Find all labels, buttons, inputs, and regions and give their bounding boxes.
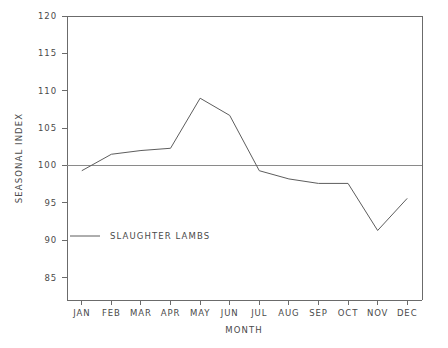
x-axis-tick-label: JAN bbox=[72, 308, 90, 318]
y-axis-tick-label: 105 bbox=[38, 123, 57, 133]
series-line-slaughter-lambs bbox=[82, 98, 407, 230]
y-axis-tick-label: 85 bbox=[44, 273, 57, 283]
x-axis: JANFEBMARAPRMAYJUNJULAUGSEPOCTNOVDEC bbox=[72, 300, 417, 318]
x-axis-tick-label: DEC bbox=[397, 308, 418, 318]
chart-legend: SLAUGHTER LAMBS bbox=[70, 231, 210, 241]
y-axis-tick-label: 120 bbox=[38, 11, 57, 21]
y-axis-tick-label: 90 bbox=[44, 235, 57, 245]
x-axis-tick-label: MAR bbox=[130, 308, 152, 318]
y-axis-tick-label: 100 bbox=[38, 160, 57, 170]
x-axis-tick-label: SEP bbox=[309, 308, 328, 318]
y-axis: 859095100105110115120 bbox=[38, 11, 67, 283]
y-axis-tick-label: 95 bbox=[44, 198, 57, 208]
y-axis-tick-label: 115 bbox=[38, 48, 57, 58]
seasonal-index-chart: 859095100105110115120 JANFEBMARAPRMAYJUN… bbox=[0, 0, 448, 348]
x-axis-tick-label: OCT bbox=[338, 308, 359, 318]
x-axis-tick-label: NOV bbox=[367, 308, 388, 318]
chart-canvas: 859095100105110115120 JANFEBMARAPRMAYJUN… bbox=[0, 0, 448, 348]
x-axis-tick-label: MAY bbox=[190, 308, 210, 318]
x-axis-title: MONTH bbox=[225, 325, 262, 335]
x-axis-tick-label: FEB bbox=[102, 308, 121, 318]
y-axis-tick-label: 110 bbox=[38, 86, 57, 96]
x-axis-tick-label: APR bbox=[161, 308, 181, 318]
x-axis-tick-label: JUN bbox=[220, 308, 239, 318]
legend-label-slaughter-lambs: SLAUGHTER LAMBS bbox=[110, 231, 210, 241]
x-axis-tick-label: AUG bbox=[278, 308, 299, 318]
x-axis-tick-label: JUL bbox=[250, 308, 267, 318]
y-axis-title: SEASONAL INDEX bbox=[14, 113, 24, 203]
